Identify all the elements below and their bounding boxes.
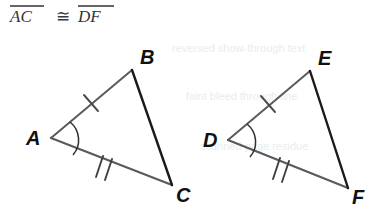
segment-label-ac: AC xyxy=(9,7,32,26)
vertex-label-c: C xyxy=(176,184,191,206)
vertex-label-d: D xyxy=(203,129,217,151)
congruent-triangles-diagram: reversed show-through text faint bleed t… xyxy=(0,0,390,210)
ghost-text-0: reversed show-through text xyxy=(172,42,305,54)
vertex-label-a: A xyxy=(25,127,40,149)
segment-label-df: DF xyxy=(77,7,101,26)
figure-background xyxy=(0,0,390,210)
vertex-label-b: B xyxy=(140,46,154,68)
geometry-figure: reversed show-through text faint bleed t… xyxy=(0,0,390,210)
congruent-symbol: ≅ xyxy=(56,7,70,26)
vertex-label-e: E xyxy=(318,47,332,69)
vertex-label-f: F xyxy=(352,186,365,208)
congruence-statement: AC ≅ DF xyxy=(9,6,114,26)
